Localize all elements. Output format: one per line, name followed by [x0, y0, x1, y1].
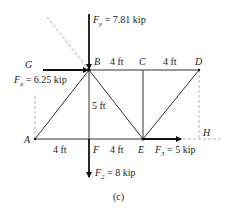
joint-d: [198, 69, 200, 71]
dim-label-height: 5 ft: [92, 100, 106, 111]
node-label-f: F: [92, 144, 100, 155]
node-label-b: B: [94, 56, 100, 67]
force-label-fx: Fx = 6.25 kip: [13, 74, 67, 88]
force-label-fy: Fy = 7.81 kip: [92, 14, 146, 28]
node-label-a: A: [23, 134, 31, 145]
dashed-line-of-action: [47, 17, 89, 70]
force-label-f3: F3 = 5 kip: [154, 144, 196, 158]
dim-label-bc: 4 ft: [110, 56, 124, 67]
node-label-g: G: [25, 59, 32, 70]
figure-caption: (c): [113, 191, 124, 203]
force-label-f2: F2 = 8 kip: [94, 167, 136, 181]
joint-a: [34, 138, 36, 140]
member-de: [143, 70, 199, 139]
dim-label-cd: 4 ft: [163, 56, 177, 67]
truss-diagram: B C D G A F E H 4 ft 4 ft 5 ft 4 ft 4 ft…: [0, 0, 231, 210]
node-label-c: C: [139, 56, 146, 67]
node-label-h: H: [202, 127, 211, 138]
dim-label-fe: 4 ft: [110, 144, 124, 155]
node-label-e: E: [137, 144, 144, 155]
node-label-d: D: [194, 56, 203, 67]
dim-label-af: 4 ft: [53, 144, 67, 155]
